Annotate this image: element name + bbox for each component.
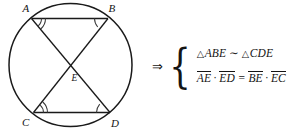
- vertex-label-d: D: [110, 117, 119, 129]
- implies-arrow-icon: ⇒: [152, 60, 165, 73]
- point-label-e: E: [71, 73, 78, 83]
- triangle-2-vertices: CDE: [250, 47, 273, 59]
- angle-arc-c-inner: [40, 105, 43, 112]
- product-equation: AE·ED=BE·EC: [197, 71, 299, 85]
- triangle-symbol-1: △: [197, 48, 204, 59]
- similar-symbol: ∼: [229, 46, 239, 60]
- equals-symbol: =: [238, 72, 245, 84]
- triangle-symbol-2: △: [242, 48, 249, 59]
- segment-ed: ED: [219, 71, 235, 85]
- segment-be: BE: [248, 71, 262, 85]
- left-curly-brace: {: [169, 47, 191, 86]
- angle-arc-b: [95, 19, 98, 28]
- chord-bc: [34, 19, 109, 113]
- segment-ec: EC: [271, 71, 286, 85]
- vertex-label-b: B: [109, 2, 116, 14]
- triangle-1-vertices: ABE: [205, 47, 226, 59]
- vertex-label-a: A: [22, 2, 30, 14]
- multiply-dot-2: ·: [265, 72, 268, 83]
- segment-ae: AE: [197, 71, 211, 85]
- conclusion-block: ⇒ { △ABE∼△CDE AE·ED=BE·EC: [152, 33, 299, 99]
- formula-stack: △ABE∼△CDE AE·ED=BE·EC: [194, 46, 299, 85]
- angle-arc-d: [97, 104, 100, 112]
- vertex-label-c: C: [22, 116, 30, 128]
- similarity-statement: △ABE∼△CDE: [197, 46, 299, 60]
- multiply-dot-1: ·: [214, 72, 217, 83]
- geometry-figure: A B C D E ⇒ { △ABE∼△CDE AE·ED=BE·EC: [0, 0, 299, 132]
- angle-arc-a-inner: [38, 19, 41, 26]
